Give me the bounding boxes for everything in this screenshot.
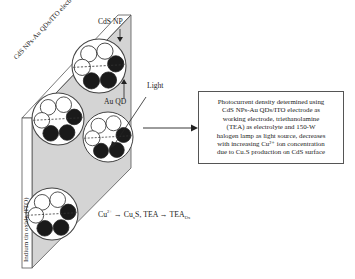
description-line: halogen lamp as light source, decreases (202, 132, 340, 140)
ito-side-label: Indium tin oxide (ITO) (22, 197, 30, 262)
reaction-arrow-1: → Cu (112, 210, 133, 219)
description-line: with increasing Cu²⁺ ion concentration (202, 140, 340, 148)
result-arrowhead-icon (191, 125, 198, 132)
description-line: due to CuₓS production on CdS surface (202, 148, 340, 156)
reaction-rest: S, TEA → TEA (135, 210, 185, 219)
description-line: CdS NPs-Au QDs/ITO electrode as (202, 106, 340, 114)
np-cluster-3 (83, 112, 133, 162)
au-qd-label: Au QD (104, 98, 126, 106)
reaction-equation: Cu2+ → CuxS, TEA → TEAOx (98, 209, 190, 220)
description-line: (TEA) as electrolyte and 150-W (202, 123, 340, 131)
cds-np-label: CdS NP (98, 18, 123, 26)
light-label: Light (147, 82, 163, 90)
cu-ion: Cu (98, 210, 107, 219)
np-cluster-2 (32, 93, 84, 145)
np-cluster-1 (72, 39, 126, 93)
description-line: working electrode, triethanolamine (202, 115, 340, 123)
description-box: Photocurrent density determined using Cd… (198, 91, 344, 164)
tea-subscript: Ox (185, 215, 191, 220)
description-line: Photocurrent density determined using (202, 98, 340, 106)
np-cluster-4 (26, 188, 78, 240)
